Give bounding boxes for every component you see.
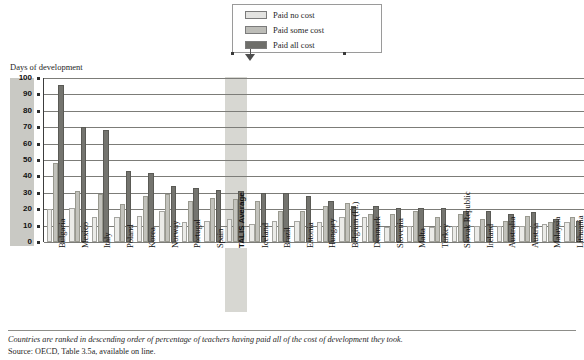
bar-group <box>202 78 225 242</box>
x-axis-labels: BulgariaMexicoItalyPolandKoreaNorwayPort… <box>44 248 584 332</box>
x-axis-label: Denmark <box>373 216 382 248</box>
y-tick-label-30: 30 <box>8 189 32 197</box>
x-axis-label: Brazil <box>283 227 292 248</box>
chart-legend: Paid no cost Paid some cost Paid all cos… <box>232 4 382 53</box>
x-axis-label: Malta <box>418 228 427 248</box>
bar <box>137 216 142 242</box>
x-axis-label: Turkey <box>441 224 450 248</box>
y-tick-label-60: 60 <box>8 140 32 148</box>
chart-footnote: Countries are ranked in descending order… <box>8 334 578 345</box>
y-tick-label-0: 0 <box>8 238 32 246</box>
plot-area: 0102030405060708090100 <box>10 78 574 246</box>
bar <box>384 227 389 242</box>
bar <box>339 217 344 242</box>
y-tick-dot-80 <box>37 110 40 113</box>
x-axis-label: Estonia <box>306 223 315 249</box>
bar <box>474 226 479 242</box>
legend-swatch-paid-no-cost <box>245 11 267 19</box>
x-axis-label: Italy <box>103 232 112 248</box>
bar-group <box>292 78 315 242</box>
y-tick-dot-20 <box>37 208 40 211</box>
bar <box>227 219 232 242</box>
legend-label-paid-no-cost: Paid no cost <box>273 11 315 20</box>
bar-group <box>269 78 292 242</box>
bar <box>272 221 277 242</box>
x-axis-label: TALIS Average <box>238 192 246 248</box>
y-tick-dot-0 <box>37 241 40 244</box>
y-axis-title: Days of development <box>10 62 83 72</box>
y-tick-label-100: 100 <box>8 74 32 82</box>
footer-divider <box>8 330 576 331</box>
x-axis-label: Portugal <box>193 219 202 248</box>
bar <box>407 226 412 242</box>
bar <box>47 209 52 242</box>
y-tick-label-20: 20 <box>8 205 32 213</box>
y-tick-dot-70 <box>37 126 40 129</box>
bar-group <box>404 78 427 242</box>
legend-label-paid-some-cost: Paid some cost <box>273 26 324 35</box>
bar-group <box>67 78 90 242</box>
bar <box>362 217 367 242</box>
legend-swatch-paid-all-cost <box>245 41 267 49</box>
x-axis-label: Australia <box>508 217 517 248</box>
x-axis-label: Slovak Republic <box>463 192 472 248</box>
bar <box>204 221 209 242</box>
bar <box>103 130 108 242</box>
plot-canvas: 0102030405060708090100 <box>44 78 584 242</box>
y-tick-dot-60 <box>37 143 40 146</box>
bar <box>159 211 164 242</box>
legend-item-paid-some-cost: Paid some cost <box>245 23 381 37</box>
bar <box>249 224 254 242</box>
legend-pointer-arrow-icon <box>245 54 255 61</box>
bar <box>519 226 524 242</box>
bar-group <box>157 78 180 242</box>
y-tick-label-70: 70 <box>8 123 32 131</box>
y-tick-dot-100 <box>37 77 40 80</box>
y-tick-label-10: 10 <box>8 222 32 230</box>
x-axis-label: Malaysia <box>553 217 562 248</box>
y-tick-label-80: 80 <box>8 107 32 115</box>
bar-group <box>134 78 157 242</box>
bar <box>294 221 299 242</box>
y-tick-dot-40 <box>37 175 40 178</box>
x-axis-label: Korea <box>148 227 157 248</box>
x-axis-label: Hungary <box>328 218 337 248</box>
bar <box>452 226 457 242</box>
x-axis-label: Norway <box>171 221 180 248</box>
x-axis-label: Poland <box>126 224 135 248</box>
bar <box>429 227 434 242</box>
bar-group <box>179 78 202 242</box>
bar-group <box>472 78 495 242</box>
y-tick-dot-90 <box>37 93 40 96</box>
bar <box>114 217 119 242</box>
y-tick-dot-10 <box>37 225 40 228</box>
bar <box>69 208 74 242</box>
x-axis-label: Ireland <box>486 224 495 248</box>
x-axis-label: Bulgaria <box>58 219 67 248</box>
bar <box>92 217 97 242</box>
talis-average-label-highlight <box>225 248 248 312</box>
x-axis-label: Slovenia <box>396 218 405 248</box>
bar <box>182 222 187 242</box>
y-tick-dot-30 <box>37 192 40 195</box>
bar-group <box>427 78 450 242</box>
legend-item-paid-all-cost: Paid all cost <box>245 38 381 52</box>
legend-corner-marker-left <box>231 52 234 55</box>
legend-corner-marker-right <box>343 52 346 55</box>
x-axis-label: Mexico <box>81 222 90 248</box>
x-axis-label: Lithuania <box>576 215 584 248</box>
x-axis-label: Spain <box>216 229 225 248</box>
legend-label-paid-all-cost: Paid all cost <box>273 41 315 50</box>
y-tick-label-90: 90 <box>8 90 32 98</box>
legend-item-paid-no-cost: Paid no cost <box>245 8 381 22</box>
bar-series-container <box>44 78 584 242</box>
bar <box>497 226 502 242</box>
y-tick-dot-50 <box>37 159 40 162</box>
bar-group <box>112 78 135 242</box>
legend-swatch-paid-some-cost <box>245 26 267 34</box>
y-tick-label-50: 50 <box>8 156 32 164</box>
bar-group <box>517 78 540 242</box>
x-axis-label: Austria <box>531 223 540 248</box>
x-axis-label: Belgium (Fl.) <box>351 202 360 248</box>
x-axis-label: Iceland <box>261 223 270 248</box>
